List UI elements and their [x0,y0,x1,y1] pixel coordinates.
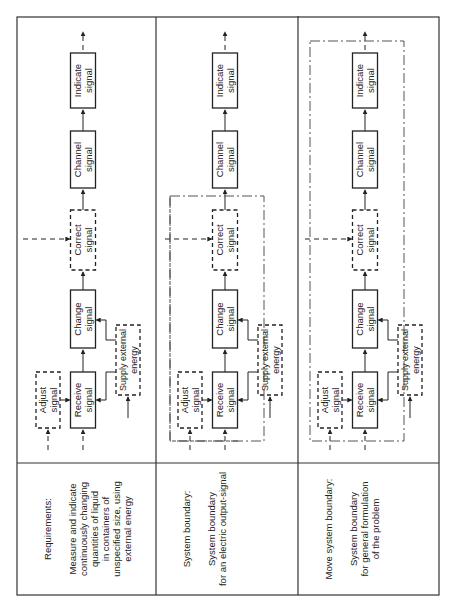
cell-description: System boundaryfor general formulationof… [348,481,381,576]
cell-heading: System boundary: [181,491,192,568]
channel-signal-label: Channelsignal [72,142,94,177]
cell-description-line: unspecified size, using [111,481,122,577]
cell-description-line: for general formulation [359,481,370,576]
cell-description-line: System boundary [348,492,359,566]
change-signal-label-line: Change [214,302,225,335]
change-signal-label-line: Change [354,302,365,335]
adjust-signal-label-line: signal [330,388,341,413]
adjust-signal-label-line: Adjust [179,386,190,413]
channel-signal-label-line: signal [83,147,94,172]
adjust-signal-label-line: signal [48,388,59,413]
correct-signal-label: Correctsignal [354,224,376,256]
indicate-signal-label: Indicatesignal [354,64,376,97]
channel-signal-label-line: signal [365,147,376,172]
correct-signal-label: Correctsignal [72,224,94,256]
indicate-signal-label: Indicatesignal [72,64,94,97]
change-signal-label: Changesignal [214,302,236,335]
channel-signal-label-line: Channel [354,142,365,177]
channel-signal-label: Channelsignal [354,142,376,177]
supply-energy-label-line: Supply external [400,329,410,391]
receive-signal-label-line: signal [225,388,236,413]
cell-heading-line: System boundary: [181,491,192,568]
indicate-signal-label-line: Indicate [214,64,225,97]
receive-signal-label-line: signal [365,388,376,413]
supply-energy-label-line: energy [271,346,281,374]
cell-description: Measure and indicatecontinuously changin… [67,481,133,577]
correct-signal-label-line: signal [365,228,376,253]
adjust-signal-label-line: Adjust [37,386,48,413]
change-signal-label-line: Change [72,302,83,335]
cell-description-line: for an electric output-signal [217,472,228,586]
correct-signal-label-line: Correct [354,224,365,256]
channel-signal-label-line: Channel [214,142,225,177]
change-signal-label-line: signal [225,307,236,332]
receive-signal-label: Receivesignal [354,383,376,417]
cell-heading-line: Requirements: [42,498,53,560]
adjust-signal-label-line: Adjust [319,386,330,413]
indicate-signal-label-line: Indicate [72,64,83,97]
indicate-signal-label-line: signal [365,68,376,93]
supply-energy-label-line: energy [129,346,139,374]
adjust-signal-label-line: signal [190,388,201,413]
correct-signal-label-line: signal [83,228,94,253]
correct-signal-label-line: Correct [214,224,225,256]
indicate-signal-label-line: signal [225,68,236,93]
cell-heading: Requirements: [42,498,53,560]
supply-energy-label-line: Supply external [260,329,270,391]
receive-signal-label-line: Receive [72,383,83,417]
cell-description-line: in containers of [100,496,111,561]
cell-description-line: quantities of liquid [89,491,100,567]
adjust-signal-label: Adjustsignal [319,386,341,413]
correct-signal-label: Correctsignal [214,224,236,256]
indicate-signal-label: Indicatesignal [214,64,236,97]
indicate-signal-label-line: Indicate [354,64,365,97]
function-structure-figure: IndicatesignalChannelsignalCorrectsignal… [0,0,454,609]
channel-signal-label-line: signal [225,147,236,172]
receive-signal-label-line: signal [83,388,94,413]
receive-signal-label: Receivesignal [214,383,236,417]
cell-description: System boundaryfor an electric output-si… [206,472,228,586]
receive-signal-label: Receivesignal [72,383,94,417]
channel-signal-label-line: Channel [72,142,83,177]
cell-description-line: continuously changing [78,482,89,576]
cell-description-line: System boundary [206,492,217,566]
adjust-signal-label: Adjustsignal [37,386,59,413]
change-signal-label: Changesignal [354,302,376,335]
change-signal-label-line: signal [83,307,94,332]
correct-signal-label-line: Correct [72,224,83,256]
supply-energy-label-line: Supply external [118,329,128,391]
receive-signal-label-line: Receive [354,383,365,417]
change-signal-label: Changesignal [72,302,94,335]
change-signal-label-line: signal [365,307,376,332]
receive-signal-label-line: Receive [214,383,225,417]
cell-description-line: of the problem [370,499,381,560]
adjust-signal-label: Adjustsignal [179,386,201,413]
channel-signal-label: Channelsignal [214,142,236,177]
cell-description-line: external energy [122,496,133,562]
cell-description-line: Measure and indicate [67,484,78,575]
indicate-signal-label-line: signal [83,68,94,93]
supply-energy-label-line: energy [411,346,421,374]
correct-signal-label-line: signal [225,228,236,253]
cell-heading-line: Move system boundary: [323,479,334,580]
cell-heading: Move system boundary: [323,479,334,580]
